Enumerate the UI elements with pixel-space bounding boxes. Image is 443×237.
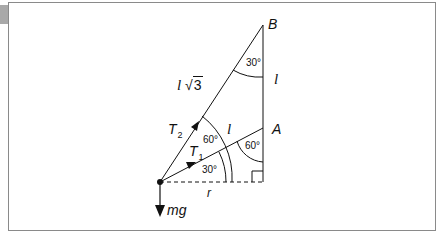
- angle-label-A: 60°: [245, 141, 260, 151]
- radius-label: r: [207, 187, 211, 199]
- weight-arrowhead: [155, 205, 165, 217]
- angle-label-T2: 60°: [203, 135, 218, 145]
- point-label-B: B: [268, 17, 277, 31]
- T2-arrowhead: [191, 121, 199, 131]
- force-label-T2: T2: [168, 122, 182, 136]
- length-label-mass-A: l: [227, 122, 231, 137]
- point-label-A: A: [272, 122, 281, 136]
- string-to-B: [160, 25, 263, 182]
- angle-arc-30-mass: [219, 152, 226, 182]
- length-label-mass-B: l √3: [177, 78, 203, 93]
- force-label-T1: T1: [189, 144, 203, 158]
- weight-label: mg: [167, 203, 186, 217]
- angle-label-T1: 30°: [202, 165, 217, 175]
- right-angle-marker: [252, 171, 263, 182]
- length-label-BA: l: [274, 72, 278, 87]
- angle-arc-B: [233, 70, 263, 77]
- physics-diagram: [0, 0, 443, 237]
- angle-label-B: 30°: [246, 58, 261, 68]
